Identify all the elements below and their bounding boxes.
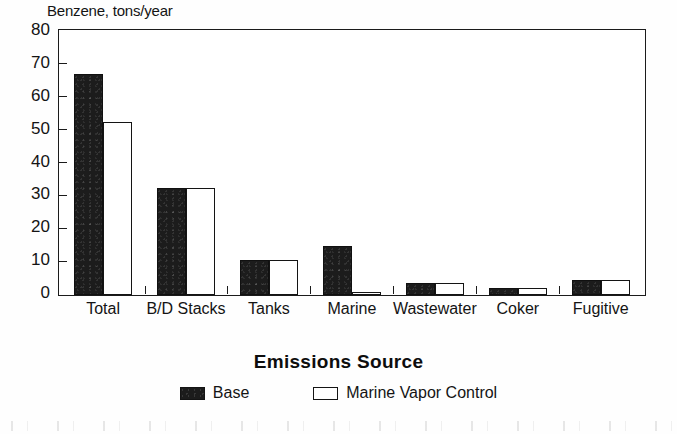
bar-marine-marine-vapor-control bbox=[352, 292, 381, 295]
y-tick-label-40: 40 bbox=[8, 152, 50, 172]
y-tick-20 bbox=[58, 228, 67, 229]
bar-wastewater-base bbox=[406, 283, 435, 295]
y-tick-50 bbox=[58, 129, 67, 130]
bar-group-coker bbox=[477, 30, 560, 295]
bar-tanks-marine-vapor-control bbox=[269, 260, 298, 295]
legend-swatch-marine-vapor-control bbox=[313, 387, 338, 400]
y-tick-60 bbox=[58, 96, 67, 97]
x-tick-6 bbox=[559, 286, 560, 294]
x-tick-3 bbox=[310, 286, 311, 294]
bar-coker-base bbox=[489, 288, 518, 295]
bar-b-d-stacks-base bbox=[157, 188, 186, 295]
chart-legend: BaseMarine Vapor Control bbox=[0, 384, 677, 402]
bar-tanks-base bbox=[240, 260, 269, 295]
x-tick-label-total: Total bbox=[86, 300, 120, 318]
x-axis-title: Emissions Source bbox=[0, 351, 677, 373]
bar-series-container bbox=[59, 30, 645, 295]
y-tick-label-80: 80 bbox=[8, 20, 50, 40]
x-tick-4 bbox=[393, 286, 394, 294]
legend-label-base: Base bbox=[213, 384, 249, 402]
bar-group-marine bbox=[310, 30, 393, 295]
x-tick-2 bbox=[227, 286, 228, 294]
y-tick-label-0: 0 bbox=[8, 283, 50, 303]
y-tick-10 bbox=[58, 261, 67, 262]
bar-total-marine-vapor-control bbox=[103, 122, 132, 295]
x-tick-label-b-d-stacks: B/D Stacks bbox=[146, 300, 225, 318]
bar-group-total bbox=[61, 30, 144, 295]
bar-group-b-d-stacks bbox=[144, 30, 227, 295]
y-tick-70 bbox=[58, 63, 67, 64]
y-tick-label-50: 50 bbox=[8, 119, 50, 139]
y-tick-40 bbox=[58, 162, 67, 163]
bar-group-tanks bbox=[227, 30, 310, 295]
bar-fugitive-marine-vapor-control bbox=[601, 280, 630, 295]
scan-artifact bbox=[0, 421, 677, 431]
x-tick-label-wastewater: Wastewater bbox=[393, 300, 477, 318]
benzene-emissions-bar-chart: Benzene, tons/year 01020304050607080 Tot… bbox=[0, 0, 677, 434]
x-tick-label-marine: Marine bbox=[327, 300, 376, 318]
y-tick-label-30: 30 bbox=[8, 184, 50, 204]
x-tick-5 bbox=[476, 286, 477, 294]
y-tick-label-10: 10 bbox=[8, 250, 50, 270]
y-axis-title: Benzene, tons/year bbox=[47, 2, 173, 19]
bar-total-base bbox=[74, 74, 103, 295]
y-tick-label-20: 20 bbox=[8, 217, 50, 237]
bar-marine-base bbox=[323, 246, 352, 295]
y-tick-label-60: 60 bbox=[8, 86, 50, 106]
bar-wastewater-marine-vapor-control bbox=[435, 283, 464, 295]
legend-label-marine-vapor-control: Marine Vapor Control bbox=[346, 384, 497, 402]
x-tick-1 bbox=[145, 286, 146, 294]
legend-item-marine-vapor-control: Marine Vapor Control bbox=[313, 384, 497, 402]
bar-b-d-stacks-marine-vapor-control bbox=[186, 188, 215, 295]
legend-item-base: Base bbox=[180, 384, 249, 402]
bar-group-wastewater bbox=[394, 30, 477, 295]
y-tick-label-70: 70 bbox=[8, 53, 50, 73]
bar-coker-marine-vapor-control bbox=[518, 288, 547, 295]
x-tick-label-fugitive: Fugitive bbox=[573, 300, 629, 318]
plot-area bbox=[58, 29, 646, 296]
bar-group-fugitive bbox=[560, 30, 643, 295]
y-tick-30 bbox=[58, 195, 67, 196]
x-tick-label-coker: Coker bbox=[496, 300, 539, 318]
x-tick-label-tanks: Tanks bbox=[248, 300, 290, 318]
bar-fugitive-base bbox=[572, 280, 601, 295]
legend-swatch-base bbox=[180, 387, 205, 400]
